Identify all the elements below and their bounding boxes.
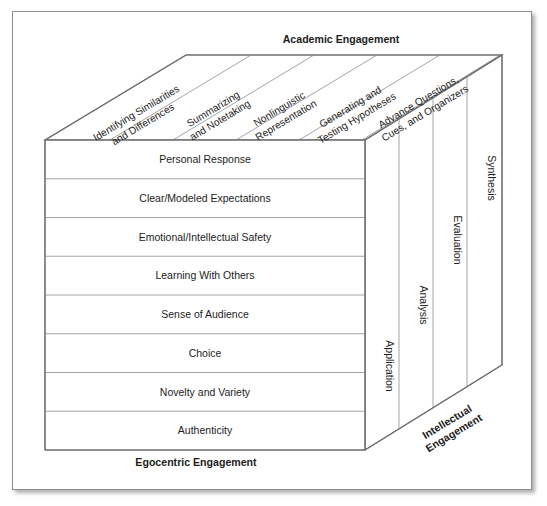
diagram-canvas: Academic Engagement Egocentric Engagemen… (0, 0, 547, 506)
front-row-label: Authenticity (178, 424, 233, 436)
front-row-label: Choice (189, 347, 222, 359)
title-egocentric-engagement: Egocentric Engagement (135, 456, 257, 468)
side-panel-label: Application (384, 340, 396, 392)
front-row-label: Sense of Audience (161, 308, 249, 320)
front-row-label: Personal Response (159, 153, 251, 165)
side-panel-label: Synthesis (486, 155, 498, 201)
front-row-label: Clear/Modeled Expectations (139, 192, 270, 204)
front-row-label: Emotional/Intellectual Safety (139, 231, 272, 243)
engagement-cube-diagram: Academic Engagement Egocentric Engagemen… (0, 0, 547, 506)
front-row-label: Novelty and Variety (160, 386, 251, 398)
side-panel-label: Evaluation (452, 215, 464, 264)
side-panel-label: Analysis (418, 285, 430, 324)
front-row-label: Learning With Others (155, 269, 254, 281)
title-academic-engagement: Academic Engagement (283, 33, 400, 45)
